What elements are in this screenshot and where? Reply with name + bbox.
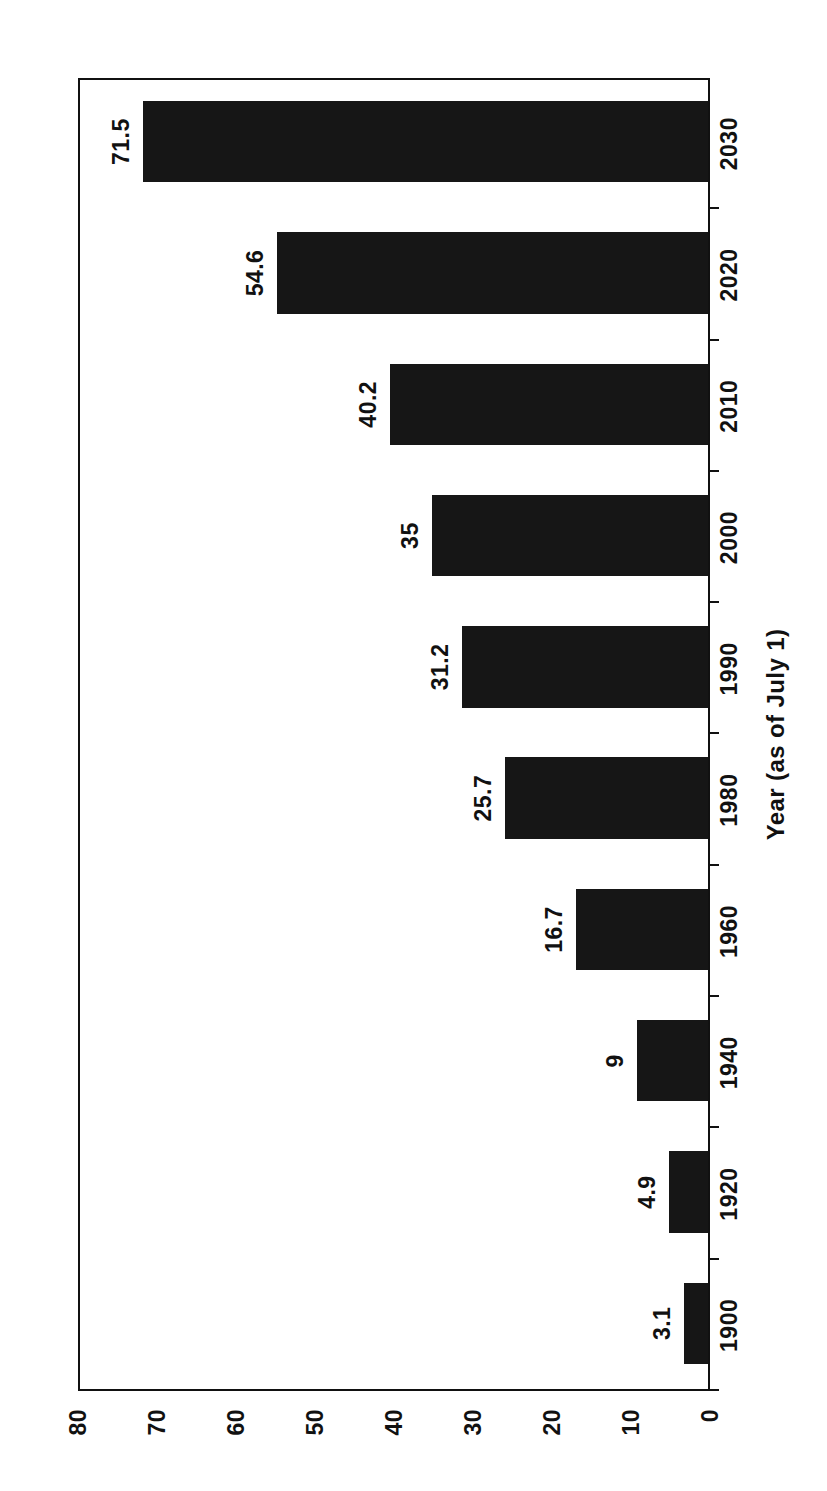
value-tick-label-30: 30 [460, 1409, 487, 1436]
bar-2010: 40.2 [80, 364, 708, 445]
bar-value-label-1900: 3.1 [649, 1307, 676, 1340]
value-tick-label-10: 10 [618, 1409, 645, 1436]
bar-1980: 25.7 [80, 757, 708, 838]
category-label-1960: 1960 [716, 905, 743, 958]
bar-1940: 9 [80, 1020, 708, 1101]
category-label-2010: 2010 [716, 380, 743, 433]
bar-rect [576, 889, 708, 970]
plot-area: 3.14.9916.725.731.23540.254.671.5 [78, 78, 710, 1391]
bar-2020: 54.6 [80, 232, 708, 313]
bar-rect [505, 757, 708, 838]
value-tick-label-60: 60 [223, 1409, 250, 1436]
bar-value-label-2020: 54.6 [242, 250, 269, 297]
category-label-1900: 1900 [716, 1299, 743, 1352]
bar-2000: 35 [80, 495, 708, 576]
category-label-2030: 2030 [716, 117, 743, 170]
value-axis-tick-labels: 01020304050607080 [78, 1395, 710, 1491]
bar-rect [462, 626, 708, 707]
bar-2030: 71.5 [80, 101, 708, 182]
bar-value-label-1990: 31.2 [427, 643, 454, 690]
bar-rect [684, 1283, 708, 1364]
bar-value-label-1980: 25.7 [470, 775, 497, 822]
category-label-1920: 1920 [716, 1167, 743, 1220]
value-tick-label-40: 40 [381, 1409, 408, 1436]
bar-value-label-1920: 4.9 [634, 1175, 661, 1208]
bar-rect [637, 1020, 708, 1101]
bar-rect [432, 495, 709, 576]
category-label-1980: 1980 [716, 774, 743, 827]
category-axis-tick-labels: 1900192019401960198019902000201020202030 [716, 78, 756, 1391]
category-label-1940: 1940 [716, 1036, 743, 1089]
bar-value-label-1940: 9 [602, 1054, 629, 1067]
category-label-1990: 1990 [716, 642, 743, 695]
bar-value-label-2010: 40.2 [355, 381, 382, 428]
value-tick-label-80: 80 [65, 1409, 92, 1436]
rotated-figure-container: 01020304050607080 3.14.9916.725.731.2354… [0, 0, 827, 1491]
value-tick-label-0: 0 [697, 1409, 724, 1422]
bar-1900: 3.1 [80, 1283, 708, 1364]
category-label-2020: 2020 [716, 248, 743, 301]
bar-rect [277, 232, 708, 313]
value-tick-label-50: 50 [302, 1409, 329, 1436]
bar-1960: 16.7 [80, 889, 708, 970]
bar-1990: 31.2 [80, 626, 708, 707]
bar-1920: 4.9 [80, 1151, 708, 1232]
bar-value-label-2000: 35 [397, 522, 424, 549]
value-tick-label-70: 70 [144, 1409, 171, 1436]
bar-rect [669, 1151, 708, 1232]
category-label-2000: 2000 [716, 511, 743, 564]
bar-value-label-1960: 16.7 [541, 906, 568, 953]
bars-layer: 3.14.9916.725.731.23540.254.671.5 [80, 80, 708, 1389]
bar-chart-figure: 01020304050607080 3.14.9916.725.731.2354… [0, 0, 827, 1491]
value-tick-label-20: 20 [539, 1409, 566, 1436]
x-axis-title: Year (as of July 1) [762, 78, 790, 1391]
bar-rect [143, 101, 708, 182]
bar-value-label-2030: 71.5 [108, 118, 135, 165]
bar-rect [390, 364, 708, 445]
